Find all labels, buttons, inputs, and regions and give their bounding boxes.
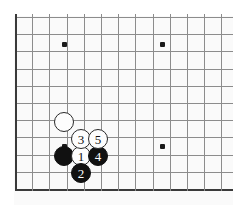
white-stone-move-5[interactable]: 5 — [88, 129, 108, 149]
go-board-diagram: 12345 — [0, 0, 233, 205]
grid-line-horizontal-1 — [15, 34, 233, 35]
board-bottom-edge — [15, 189, 233, 191]
grid-line-horizontal-8 — [15, 155, 233, 156]
grid-line-vertical-12 — [221, 14, 222, 191]
goban-grid[interactable] — [0, 0, 233, 205]
grid-line-horizontal-7 — [15, 137, 233, 138]
stone-move-number: 5 — [95, 132, 102, 145]
grid-line-vertical-6 — [118, 14, 119, 191]
white-stone-existing-upper[interactable] — [54, 112, 74, 132]
grid-line-horizontal-3 — [15, 69, 233, 70]
black-stone-move-2[interactable]: 2 — [71, 163, 91, 183]
grid-line-horizontal-4 — [15, 86, 233, 87]
grid-line-vertical-11 — [204, 14, 205, 191]
grid-line-horizontal-0 — [15, 17, 233, 18]
grid-line-horizontal-2 — [15, 51, 233, 52]
stone-move-number: 4 — [95, 149, 102, 162]
grid-line-vertical-8 — [153, 14, 154, 191]
star-point-upper-left — [62, 42, 67, 47]
grid-line-vertical-2 — [49, 14, 50, 191]
grid-line-horizontal-6 — [15, 120, 233, 121]
stone-move-number: 3 — [78, 132, 85, 145]
grid-line-vertical-1 — [32, 14, 33, 191]
stone-move-number: 2 — [78, 166, 85, 179]
grid-line-vertical-7 — [135, 14, 136, 191]
board-surface — [14, 16, 233, 205]
stone-move-number: 1 — [78, 149, 85, 162]
grid-line-vertical-9 — [170, 14, 171, 191]
star-point-upper-right — [160, 42, 165, 47]
grid-line-horizontal-5 — [15, 103, 233, 104]
grid-line-vertical-10 — [187, 14, 188, 191]
grid-line-horizontal-9 — [15, 172, 233, 173]
board-left-edge — [15, 14, 17, 191]
star-point-lower-right — [160, 144, 165, 149]
black-stone-move-4[interactable]: 4 — [88, 146, 108, 166]
